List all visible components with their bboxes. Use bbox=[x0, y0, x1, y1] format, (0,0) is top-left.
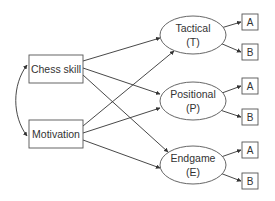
indicator-endgame-b: B bbox=[242, 173, 258, 189]
indicator-positional-a: A bbox=[242, 78, 258, 94]
path-tactical-to-b bbox=[220, 43, 241, 52]
indicator-positional-b: B bbox=[242, 109, 258, 125]
node-motivation: Motivation bbox=[29, 120, 83, 148]
path-positional-to-a bbox=[222, 86, 241, 93]
endgame-abbr: (E) bbox=[186, 166, 200, 178]
svg-text:B: B bbox=[247, 112, 254, 123]
path-chess-skill-to-tactical bbox=[83, 38, 160, 61]
positional-abbr: (P) bbox=[186, 102, 200, 114]
tactical-abbr: (T) bbox=[186, 36, 199, 48]
svg-text:A: A bbox=[247, 81, 254, 92]
tactical-label: Tactical bbox=[175, 22, 210, 34]
svg-text:B: B bbox=[247, 176, 254, 187]
node-positional: Positional (P) bbox=[160, 82, 226, 120]
path-endgame-to-b bbox=[220, 173, 241, 181]
indicator-tactical-b: B bbox=[242, 44, 258, 60]
chess-skill-label: Chess skill bbox=[31, 63, 81, 75]
path-motivation-to-endgame bbox=[83, 140, 160, 168]
node-endgame: Endgame (E) bbox=[160, 146, 226, 184]
path-positional-to-b bbox=[220, 110, 241, 117]
node-chess-skill: Chess skill bbox=[29, 55, 83, 83]
svg-text:A: A bbox=[247, 145, 254, 156]
indicator-endgame-a: A bbox=[242, 142, 258, 158]
svg-text:A: A bbox=[247, 17, 254, 28]
positional-label: Positional bbox=[170, 88, 216, 100]
path-motivation-to-positional bbox=[83, 108, 160, 133]
motivation-label: Motivation bbox=[32, 128, 80, 140]
path-endgame-to-a bbox=[221, 150, 241, 157]
svg-text:B: B bbox=[247, 47, 254, 58]
path-chess-skill-to-endgame bbox=[83, 75, 168, 152]
endgame-label: Endgame bbox=[171, 152, 216, 164]
indicator-tactical-a: A bbox=[242, 14, 258, 30]
path-motivation-to-tactical bbox=[83, 51, 174, 126]
path-tactical-to-a bbox=[221, 22, 241, 28]
covariance-arrow bbox=[16, 65, 27, 136]
node-tactical: Tactical (T) bbox=[160, 16, 226, 54]
path-diagram: Chess skill Motivation Tactical (T) Posi… bbox=[0, 0, 275, 201]
